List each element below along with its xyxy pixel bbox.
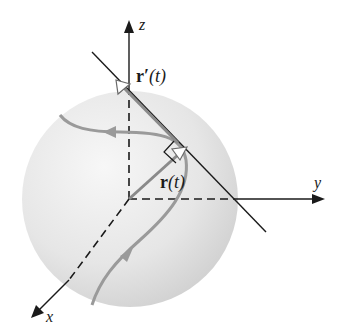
tangent-vector-label: r′(t) bbox=[136, 66, 166, 87]
y-axis-arrow-icon bbox=[312, 194, 325, 204]
y-axis-label: y bbox=[312, 174, 322, 192]
z-axis-label: z bbox=[138, 16, 146, 33]
position-vector-label: r(t) bbox=[160, 172, 185, 193]
x-axis bbox=[38, 280, 69, 311]
sphere-curve-diagram: z y x r′(t) r(t) bbox=[0, 0, 351, 328]
x-axis-label: x bbox=[45, 308, 53, 325]
z-axis-arrow-icon bbox=[124, 20, 134, 33]
